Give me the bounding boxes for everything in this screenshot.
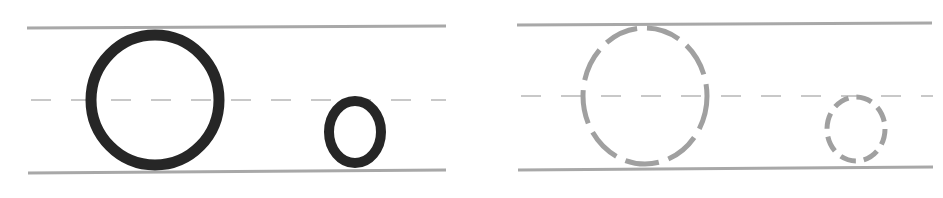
top-guide-line (27, 26, 446, 28)
bottom-guide-line (518, 167, 933, 170)
lowercase-o-solid (329, 101, 381, 163)
example-panel (27, 26, 446, 173)
bottom-guide-line (28, 170, 446, 173)
top-guide-line (517, 23, 932, 25)
lowercase-o-trace (827, 97, 885, 161)
handwriting-worksheet (0, 0, 943, 198)
trace-panel (517, 23, 933, 170)
